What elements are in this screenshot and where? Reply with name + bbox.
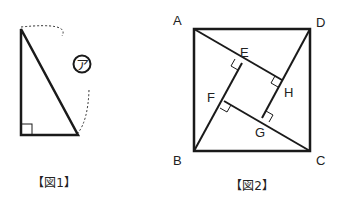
figure-2-caption: 【図2】 [230, 179, 274, 193]
label-C: C [316, 153, 325, 168]
right-triangle [21, 29, 78, 135]
rotation-arc-lower [78, 90, 89, 133]
right-angle-mark-G [266, 111, 273, 122]
label-A: A [173, 13, 182, 28]
right-angle-mark-E [231, 59, 238, 70]
rotation-arc [21, 26, 63, 36]
angle-marker-label: ア [76, 57, 89, 72]
label-E: E [240, 45, 249, 60]
label-B: B [173, 153, 182, 168]
label-F: F [207, 90, 215, 105]
label-D: D [316, 15, 325, 30]
right-angle-mark-F [220, 105, 231, 112]
figure-2: A D B C E H F G 【図2】 [173, 13, 325, 193]
figure-1-caption: 【図1】 [32, 176, 76, 190]
label-H: H [284, 85, 293, 100]
figure-1: ア 【図1】 [21, 26, 91, 190]
label-G: G [255, 125, 265, 140]
right-angle-mark [21, 124, 32, 135]
diagram-canvas: ア 【図1】 A D B C E H F G 【図2】 [0, 0, 342, 211]
